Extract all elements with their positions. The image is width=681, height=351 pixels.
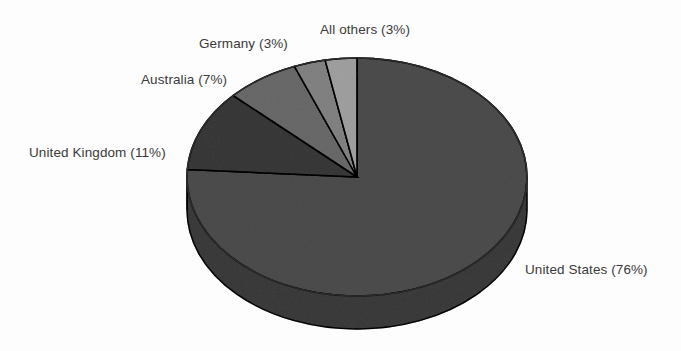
pie-chart-figure: All others (3%) Germany (3%) Australia (… xyxy=(0,0,681,351)
pie-label-united-states: United States (76%) xyxy=(525,262,648,277)
pie-chart-canvas xyxy=(0,0,681,351)
pie-label-australia: Australia (7%) xyxy=(141,72,227,87)
pie-label-united-kingdom: United Kingdom (11%) xyxy=(29,145,166,160)
pie-top-face xyxy=(187,58,527,296)
pie-label-all-others: All others (3%) xyxy=(320,22,410,37)
pie-label-germany: Germany (3%) xyxy=(199,36,288,51)
